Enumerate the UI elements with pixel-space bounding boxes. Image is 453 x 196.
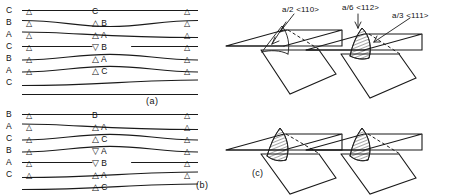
stacking-mid-label: △ C: [92, 134, 108, 144]
stacking-mid-label: ▽ B: [92, 42, 107, 52]
stacking-right-marker: △: [184, 160, 190, 168]
stacking-left-marker: △: [26, 148, 32, 156]
stacking-row: [22, 192, 198, 196]
panel-tag-b: (b): [196, 180, 209, 190]
annotation-burgers-frank: a/3 <111>: [392, 11, 429, 20]
stacking-panel-b: BACBACB△ A△ C▽ A▽ B△ A△ C△△△△△△△△△△△△: [6, 108, 206, 192]
stacking-left-marker: △: [26, 56, 32, 64]
stacking-edge-label: C: [6, 133, 16, 143]
stacking-right-marker: △: [184, 112, 190, 120]
stacking-left-marker: △: [26, 68, 32, 76]
stacking-left-marker: △: [26, 8, 32, 16]
stacking-mid-label: △ A: [92, 54, 107, 64]
stacking-edge-label: B: [6, 145, 16, 155]
stacking-right-marker: △: [184, 20, 190, 28]
stacking-edge-label: C: [6, 169, 16, 179]
annotation-burgers-shockley: a/6 <112>: [342, 3, 379, 12]
stacking-mid-label: △ C: [92, 66, 108, 76]
stacking-edge-label: B: [6, 53, 16, 63]
stacking-mid-label: △ C: [92, 182, 108, 192]
stacking-mid-label: △ B: [92, 18, 107, 28]
stacking-right-marker: △: [184, 56, 190, 64]
stacking-edge-label: C: [6, 41, 16, 51]
stacking-edge-label: C: [6, 77, 16, 87]
stacking-left-marker: △: [26, 44, 32, 52]
stacking-edge-label: A: [6, 29, 16, 39]
stacking-edge-label: A: [6, 157, 16, 167]
stacking-mid-label: △ A: [92, 170, 107, 180]
stacking-right-marker: △: [184, 172, 190, 180]
stacking-right-marker: △: [184, 68, 190, 76]
stacking-right-marker: △: [184, 8, 190, 16]
stacking-right-marker: △: [184, 148, 190, 156]
stacking-edge-label: C: [6, 5, 16, 15]
stacking-mid-label: ▽ B: [92, 158, 107, 168]
stacking-right-marker: △: [184, 136, 190, 144]
panel-tag-c: (c): [252, 168, 263, 178]
stacking-mid-label: B: [92, 110, 98, 120]
figure-root: CBACBACC△ B△ A▽ B△ A△ C△△△△△△△△△△△△ BACB…: [0, 0, 453, 196]
stacking-row: [22, 88, 198, 101]
stacking-edge-label: B: [6, 17, 16, 27]
stacking-right-marker: △: [184, 32, 190, 40]
stacking-line: [22, 88, 198, 101]
stacking-left-marker: △: [26, 160, 32, 168]
stacking-edge-label: B: [6, 109, 16, 119]
diagram-1: [226, 14, 342, 94]
stacking-left-marker: △: [26, 112, 32, 120]
stacking-line: [22, 192, 198, 196]
stacking-left-marker: △: [26, 136, 32, 144]
diagram-3: [226, 128, 342, 194]
stacking-right-marker: △: [184, 44, 190, 52]
stacking-left-marker: △: [26, 32, 32, 40]
stacking-edge-label: A: [6, 65, 16, 75]
stacking-mid-label: C: [92, 6, 98, 16]
stacking-panel-a: CBACBACC△ B△ A▽ B△ A△ C△△△△△△△△△△△△: [6, 4, 206, 94]
panel-c-svg: a/2 <110> a/6 <112> a/3 <111>: [224, 0, 453, 196]
stacking-mid-label: △ A: [92, 122, 107, 132]
stacking-edge-label: A: [6, 121, 16, 131]
annotation-burgers-perfect: a/2 <110>: [282, 5, 319, 14]
stacking-mid-label: ▽ A: [92, 146, 107, 156]
stacking-left-marker: △: [26, 172, 32, 180]
stacking-left-marker: △: [26, 20, 32, 28]
stacking-left-marker: △: [26, 124, 32, 132]
dislocation-panel-c: a/2 <110> a/6 <112> a/3 <111>: [224, 0, 453, 196]
stacking-mid-label: △ A: [92, 30, 107, 40]
panel-tag-a: (a): [146, 96, 159, 106]
stacking-right-marker: △: [184, 124, 190, 132]
